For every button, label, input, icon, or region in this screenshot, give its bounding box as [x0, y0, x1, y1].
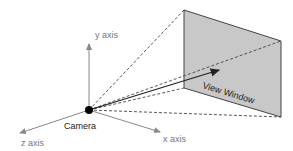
camera-label: Camera	[64, 121, 96, 131]
z-axis-label: z axis	[21, 138, 45, 148]
camera-view-diagram: y axis z axis x axis Camera View Window	[0, 0, 293, 151]
y-axis-label: y axis	[95, 30, 119, 40]
x-axis-label: x axis	[163, 134, 187, 144]
view-window-plane	[184, 10, 281, 117]
x-axis-line	[89, 110, 160, 132]
camera-dot	[85, 106, 93, 114]
